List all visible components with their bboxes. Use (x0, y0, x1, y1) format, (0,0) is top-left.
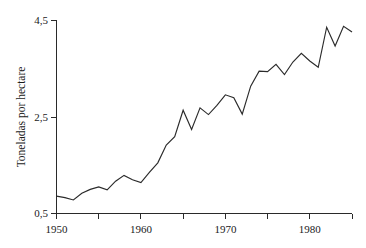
y-tick-label-2-5: 2,5 (34, 111, 48, 123)
y-tick-label-0-5: 0,5 (34, 207, 48, 219)
x-tick-label-1980: 1980 (299, 223, 322, 235)
data-series-line (57, 26, 353, 200)
y-axis-title: Toneladas por hectare (15, 67, 28, 168)
y-tick-label-4-5: 4,5 (34, 14, 48, 26)
line-chart: Toneladas por hectare 4,5 2,5 0,5 1950 1… (0, 0, 366, 248)
chart-container: Toneladas por hectare 4,5 2,5 0,5 1950 1… (0, 0, 366, 248)
x-tick-label-1960: 1960 (130, 223, 153, 235)
x-tick-label-1950: 1950 (46, 223, 69, 235)
x-tick-label-1970: 1970 (214, 223, 237, 235)
